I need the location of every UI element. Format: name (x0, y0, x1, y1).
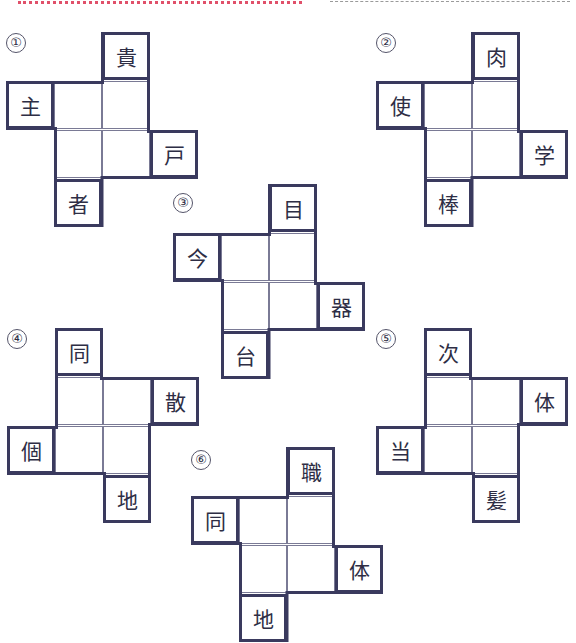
clue-bottom: 髪 (472, 475, 520, 523)
clue-right: 戸 (150, 130, 198, 178)
blank-cell[interactable] (102, 130, 150, 178)
puzzle-number: ③ (173, 193, 193, 213)
blank-cell[interactable] (239, 496, 287, 544)
blank-cell[interactable] (103, 377, 151, 425)
blank-cell[interactable] (472, 377, 520, 425)
blank-cell[interactable] (221, 282, 269, 330)
clue-top: 同 (55, 328, 103, 376)
clue-top: 次 (424, 328, 472, 376)
blank-cell[interactable] (424, 81, 472, 129)
clue-left: 主 (6, 81, 54, 129)
clue-right: 器 (317, 282, 365, 330)
blank-cell[interactable] (54, 81, 102, 129)
blank-cell[interactable] (269, 233, 317, 281)
clue-left: 当 (376, 426, 424, 474)
clue-left: 今 (173, 233, 221, 281)
puzzle-number: ⑥ (191, 450, 211, 470)
clue-top: 職 (287, 447, 335, 495)
clue-top: 目 (269, 184, 317, 232)
puzzle-2: ② 肉 使 学 棒 (376, 32, 576, 232)
clue-bottom: 台 (221, 331, 269, 379)
blank-cell[interactable] (424, 426, 472, 474)
blank-cell[interactable] (269, 282, 317, 330)
puzzle-number: ⑤ (376, 329, 396, 349)
blank-cell[interactable] (472, 426, 520, 474)
blank-cell[interactable] (472, 130, 520, 178)
blank-cell[interactable] (287, 496, 335, 544)
blank-cell[interactable] (221, 233, 269, 281)
puzzle-5: ⑤ 次 体 当 髪 (376, 328, 576, 528)
blank-cell[interactable] (103, 426, 151, 474)
puzzle-4: ④ 同 散 個 地 (7, 328, 207, 528)
clue-bottom: 者 (54, 179, 102, 227)
clue-right: 体 (520, 377, 568, 425)
blank-cell[interactable] (102, 81, 150, 129)
puzzle-number: ① (6, 33, 26, 53)
blank-cell[interactable] (239, 545, 287, 593)
clue-top: 肉 (472, 32, 520, 80)
clue-bottom: 地 (239, 594, 287, 642)
clue-left: 個 (7, 426, 55, 474)
clue-top: 貴 (102, 32, 150, 80)
clue-left: 同 (191, 496, 239, 544)
top-gray-dashed-rule (330, 1, 570, 2)
clue-left: 使 (376, 81, 424, 129)
puzzle-6: ⑥ 職 同 体 地 (191, 447, 391, 643)
blank-cell[interactable] (287, 545, 335, 593)
clue-right: 散 (151, 377, 199, 425)
clue-bottom: 地 (103, 475, 151, 523)
blank-cell[interactable] (54, 130, 102, 178)
blank-cell[interactable] (424, 377, 472, 425)
puzzle-number: ④ (7, 329, 27, 349)
clue-right: 学 (520, 130, 568, 178)
top-red-dotted-rule (18, 1, 302, 4)
blank-cell[interactable] (424, 130, 472, 178)
blank-cell[interactable] (55, 426, 103, 474)
blank-cell[interactable] (472, 81, 520, 129)
clue-bottom: 棒 (424, 179, 472, 227)
clue-right: 体 (335, 545, 383, 593)
puzzle-number: ② (376, 33, 396, 53)
blank-cell[interactable] (55, 377, 103, 425)
